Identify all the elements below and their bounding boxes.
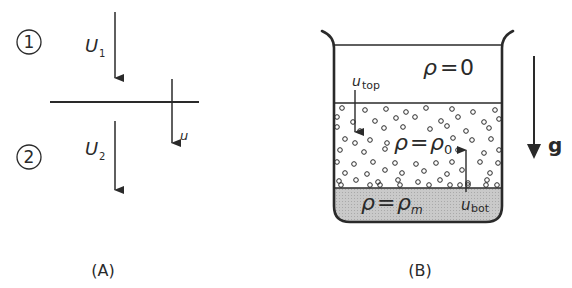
svg-text:0: 0	[460, 55, 474, 80]
interface-velocity-label: u	[180, 128, 188, 143]
middle-layer-density-label: ρ = ρ 0	[394, 130, 452, 157]
region-1-label: 1	[24, 32, 35, 52]
region-1-marker: 1	[17, 30, 41, 54]
top-layer-density-label: ρ = 0	[423, 55, 474, 80]
svg-text:ρ: ρ	[430, 130, 444, 155]
svg-text:0: 0	[444, 142, 452, 157]
svg-text:ρ: ρ	[423, 55, 437, 80]
gravity-label: g	[548, 133, 562, 157]
svg-text:=: =	[377, 190, 395, 215]
velocity-2-subscript: 2	[99, 151, 105, 162]
svg-text:ρ: ρ	[361, 190, 375, 215]
velocity-1-subscript: 1	[99, 48, 105, 59]
svg-text:m: m	[411, 203, 423, 217]
svg-text:=: =	[440, 55, 458, 80]
panel-b-caption: (B)	[408, 261, 431, 280]
diagram-canvas: 1 2 U 1 u U 2 (A)	[0, 0, 572, 288]
panel-a-caption: (A)	[91, 261, 114, 280]
svg-text:ρ: ρ	[394, 130, 408, 155]
panel-b: ρ = 0 ρ = ρ 0 ρ = ρ m u top u bot	[322, 31, 562, 280]
top-velocity-symbol: u	[352, 73, 361, 89]
svg-text:=: =	[410, 130, 428, 155]
velocity-2-symbol: U	[85, 138, 98, 159]
panel-a: 1 2 U 1 u U 2 (A)	[17, 12, 199, 280]
svg-text:ρ: ρ	[397, 190, 411, 215]
region-2-label: 2	[24, 147, 35, 167]
bottom-velocity-subscript: bot	[471, 202, 490, 215]
region-2-marker: 2	[17, 145, 41, 169]
velocity-1-symbol: U	[85, 35, 98, 56]
top-velocity-subscript: top	[362, 79, 380, 92]
gravity-arrow	[527, 56, 541, 159]
bottom-velocity-symbol: u	[461, 196, 471, 214]
